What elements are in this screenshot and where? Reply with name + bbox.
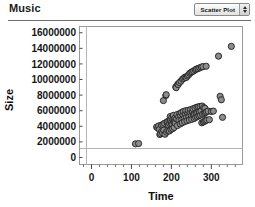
data-point (210, 108, 216, 114)
data-point (203, 63, 209, 69)
y-tick-label: 6000000 (37, 105, 76, 116)
triangle-down-icon[interactable] (243, 10, 247, 13)
y-tick-label: 14000000 (32, 43, 77, 54)
plot-type-dropdown[interactable]: Scatter Plot (194, 3, 250, 16)
header-divider (8, 20, 251, 21)
y-axis-title: Size (3, 89, 15, 111)
x-axis-title: Time (148, 190, 173, 202)
data-point (219, 114, 225, 120)
data-point (163, 92, 169, 98)
y-tick-label: 2000000 (37, 136, 76, 147)
y-axis-tick-labels: 0200000040000006000000800000010000000120… (32, 27, 77, 163)
y-tick-label: 8000000 (37, 90, 76, 101)
x-axis-tick-labels: 0100200300 (89, 172, 220, 183)
data-point (136, 140, 142, 146)
y-tick-label: 4000000 (37, 121, 76, 132)
plot-type-selected-value: Scatter Plot (195, 4, 239, 15)
page-title: Music (9, 2, 41, 14)
chart-container: 0200000040000006000000800000010000000120… (0, 22, 255, 207)
data-point (206, 117, 212, 123)
data-point-series (132, 43, 234, 147)
scatter-chart: 0200000040000006000000800000010000000120… (0, 22, 255, 207)
x-tick-label: 200 (163, 172, 180, 183)
x-tick-label: 300 (203, 172, 220, 183)
triangle-up-icon[interactable] (243, 6, 247, 9)
data-point (218, 97, 224, 103)
y-tick-label: 10000000 (32, 74, 77, 85)
data-point (215, 53, 221, 59)
y-tick-label: 12000000 (32, 59, 77, 70)
x-tick-label: 0 (89, 172, 95, 183)
y-tick-label: 0 (70, 152, 76, 163)
scatter-plot-window: Music Scatter Plot 020000004000000600000… (0, 0, 255, 207)
y-tick-label: 16000000 (32, 27, 77, 38)
x-axis-tick-marks (83, 165, 235, 170)
stepper-control[interactable] (239, 4, 249, 15)
window-header: Music Scatter Plot (0, 0, 255, 22)
data-point (228, 43, 234, 49)
x-tick-label: 100 (123, 172, 140, 183)
